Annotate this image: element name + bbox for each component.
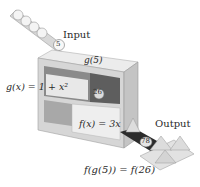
lower-left-panel	[44, 100, 72, 126]
f-function-label: f(x) = 3x	[79, 118, 121, 129]
output-label: Output	[155, 118, 191, 129]
input-value: 5	[56, 40, 60, 48]
composition-label: f(g(5)) = f(26)	[84, 164, 155, 175]
input-label: Input	[63, 29, 90, 40]
g-function-label: g(x) = 1 + x²	[6, 81, 68, 92]
intermediate-value: 26	[93, 88, 102, 96]
output-value: 78	[141, 137, 150, 145]
g-output-label: g(5)	[84, 55, 103, 65]
